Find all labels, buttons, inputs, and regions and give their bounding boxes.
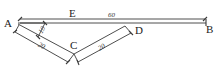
label-point-b: B <box>206 23 213 35</box>
dimension-label-ab: 60 <box>108 11 116 19</box>
label-point-d: D <box>135 24 143 36</box>
dimension-label-a-short: 10 <box>37 25 48 35</box>
geometry-diagram: A B C D E 60 10 20 20 <box>0 0 219 78</box>
label-point-e: E <box>69 7 76 19</box>
label-point-c: C <box>70 39 77 51</box>
label-point-a: A <box>4 17 12 29</box>
